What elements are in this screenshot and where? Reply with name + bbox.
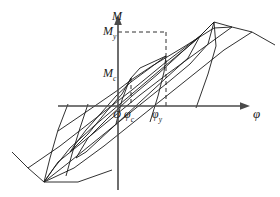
marker-label-phiy: φy [152,108,162,123]
backbone-skeleton-curve-lower [44,32,252,182]
axis-label-M: M [112,10,122,22]
hysteresis-loops [12,22,275,182]
marker-label-phic: φc [124,108,134,123]
marker-label-My-sub: y [113,32,116,41]
marker-label-phiy-sub: y [159,115,162,124]
loop-large-tail-right [232,27,275,45]
marker-label-Mc-sub: c [113,74,116,83]
marker-label-Mc-base: M [103,66,113,80]
loop-large-lower-branch [28,27,232,182]
hysteresis-plot-canvas [0,0,280,197]
marker-label-My-base: M [103,24,113,38]
loop-reload-spur-far-right [196,22,216,108]
loop-large-tail-left [12,152,28,168]
moment-curvature-figure: M My Mc O φc φy φ [0,0,280,197]
marker-label-Mc: Mc [103,67,116,82]
origin-label: O [113,109,121,120]
marker-label-phiy-base: φ [152,107,159,121]
axis-label-phi: φ [253,107,260,120]
marker-label-My: My [103,25,116,40]
marker-label-phic-base: φ [124,107,131,121]
loop-medium-tail-left [44,170,112,182]
horizontal-axis-arrowhead [240,102,250,110]
marker-label-phic-sub: c [131,115,134,124]
axes-group [58,15,250,190]
